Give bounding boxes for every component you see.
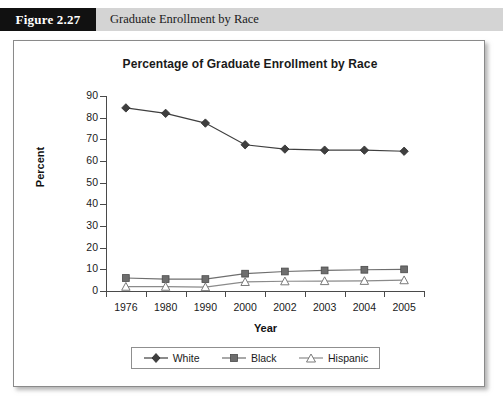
x-tick-label: 1990	[183, 301, 227, 313]
x-tick	[225, 291, 226, 297]
y-tick-label: 40	[72, 197, 98, 209]
y-tick-label: 0	[72, 284, 98, 296]
data-point-white	[122, 104, 130, 112]
series-line-white	[126, 108, 404, 151]
data-point-black	[401, 266, 408, 273]
y-tick-label: 60	[72, 154, 98, 166]
data-point-hispanic	[241, 278, 249, 286]
x-tick	[345, 291, 346, 297]
y-tick	[100, 161, 106, 162]
data-point-hispanic	[360, 277, 368, 285]
triangle-marker-icon	[298, 352, 324, 364]
data-point-white	[400, 147, 408, 155]
data-point-white	[281, 145, 289, 153]
y-tick	[100, 139, 106, 140]
data-point-black	[162, 276, 169, 283]
diamond-marker-icon	[143, 352, 169, 364]
data-point-black	[202, 276, 209, 283]
data-point-hispanic	[281, 277, 289, 285]
data-point-hispanic	[320, 277, 328, 285]
y-tick	[100, 248, 106, 249]
x-tick	[186, 291, 187, 297]
data-point-white	[201, 119, 209, 127]
y-tick-label: 30	[72, 219, 98, 231]
data-point-white	[161, 109, 169, 117]
y-tick-label: 70	[72, 132, 98, 144]
data-point-white	[360, 146, 368, 154]
x-tick	[265, 291, 266, 297]
data-point-hispanic	[161, 282, 169, 290]
y-tick	[100, 269, 106, 270]
x-tick	[106, 291, 107, 297]
y-tick	[100, 226, 106, 227]
y-tick-label: 10	[72, 262, 98, 274]
figure-caption-text: Graduate Enrollment by Race	[96, 8, 259, 31]
series-line-black	[126, 269, 404, 279]
y-axis-line	[106, 96, 107, 292]
data-point-hispanic	[122, 282, 130, 290]
x-axis-title: Year	[106, 322, 425, 334]
data-point-black	[281, 268, 288, 275]
legend-item-black: Black	[221, 352, 277, 364]
x-tick	[384, 291, 385, 297]
legend-item-hispanic: Hispanic	[298, 352, 368, 364]
x-tick	[305, 291, 306, 297]
figure-caption-bar: Figure 2.27 Graduate Enrollment by Race	[0, 8, 503, 31]
legend-label-black: Black	[251, 352, 277, 364]
x-tick-label: 2002	[263, 301, 307, 313]
square-marker-icon	[221, 352, 247, 364]
x-tick-label: 2004	[342, 301, 386, 313]
data-point-hispanic	[201, 283, 209, 291]
y-axis-title: Percent	[34, 127, 46, 207]
y-tick-label: 20	[72, 241, 98, 253]
data-point-hispanic	[400, 276, 408, 284]
figure-panel: Percentage of Graduate Enrollment by Rac…	[13, 40, 485, 387]
y-tick	[100, 118, 106, 119]
legend-label-white: White	[173, 352, 200, 364]
x-tick	[424, 291, 425, 297]
legend-label-hispanic: Hispanic	[328, 352, 368, 364]
x-tick-label: 2005	[382, 301, 426, 313]
y-tick	[100, 96, 106, 97]
data-point-white	[320, 146, 328, 154]
data-point-black	[122, 275, 129, 282]
x-tick-label: 2000	[223, 301, 267, 313]
data-point-black	[321, 267, 328, 274]
chart-legend: White Black Hispanic	[131, 347, 380, 369]
figure-number-badge: Figure 2.27	[0, 8, 96, 31]
data-point-white	[241, 141, 249, 149]
y-tick-label: 80	[72, 111, 98, 123]
y-tick	[100, 183, 106, 184]
x-tick-label: 1980	[144, 301, 188, 313]
x-tick	[146, 291, 147, 297]
x-tick-label: 1976	[104, 301, 148, 313]
series-line-hispanic	[126, 280, 404, 287]
y-tick-label: 50	[72, 176, 98, 188]
y-tick-label: 90	[72, 89, 98, 101]
data-point-black	[361, 266, 368, 273]
y-tick	[100, 204, 106, 205]
data-point-black	[242, 270, 249, 277]
chart-title: Percentage of Graduate Enrollment by Rac…	[14, 57, 486, 71]
legend-item-white: White	[143, 352, 200, 364]
x-tick-label: 2003	[303, 301, 347, 313]
